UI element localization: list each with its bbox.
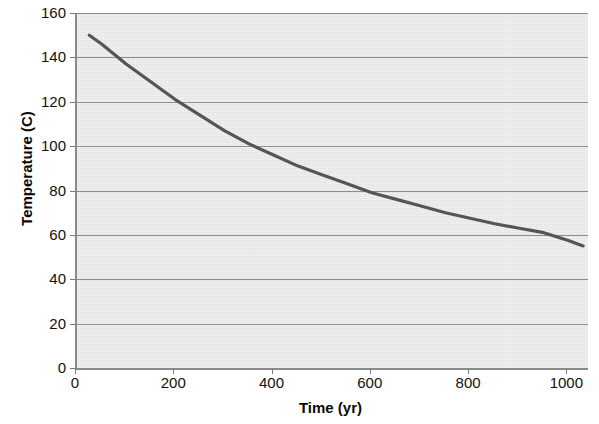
y-tick-label-20: 20 — [20, 316, 66, 331]
y-axis-title: Temperature (C) — [18, 59, 35, 279]
y-tick-20: 20 — [18, 316, 66, 332]
y-tick-mark-80 — [70, 191, 75, 192]
y-tick-120: 120 — [18, 94, 66, 110]
y-tick-label-40: 40 — [20, 271, 66, 286]
y-tick-mark-100 — [70, 146, 75, 147]
y-tick-140: 140 — [18, 49, 66, 65]
y-tick-label-140: 140 — [20, 49, 66, 64]
y-tick-0: 0 — [18, 360, 66, 376]
temperature-decay-chart: Temperature (C) 020406080100120140160 02… — [0, 0, 599, 424]
y-tick-label-120: 120 — [20, 94, 66, 109]
y-tick-label-0: 0 — [20, 360, 66, 375]
y-tick-label-100: 100 — [20, 138, 66, 153]
x-tick-label-600: 600 — [340, 375, 400, 390]
y-tick-mark-20 — [70, 324, 75, 325]
y-tick-mark-40 — [70, 279, 75, 280]
data-curve — [77, 13, 588, 368]
x-tick-label-200: 200 — [143, 375, 203, 390]
y-tick-label-80: 80 — [20, 183, 66, 198]
y-tick-mark-140 — [70, 57, 75, 58]
y-tick-mark-160 — [70, 13, 75, 14]
y-tick-160: 160 — [18, 5, 66, 21]
y-tick-label-160: 160 — [20, 5, 66, 20]
plot-area — [75, 13, 588, 370]
x-tick-label-400: 400 — [242, 375, 302, 390]
y-tick-40: 40 — [18, 271, 66, 287]
y-tick-label-60: 60 — [20, 227, 66, 242]
y-tick-60: 60 — [18, 227, 66, 243]
y-tick-80: 80 — [18, 183, 66, 199]
y-tick-100: 100 — [18, 138, 66, 154]
y-tick-mark-120 — [70, 102, 75, 103]
x-axis-title: Time (yr) — [75, 399, 586, 416]
x-tick-label-1000: 1000 — [536, 375, 596, 390]
x-tick-label-0: 0 — [45, 375, 105, 390]
y-tick-mark-60 — [70, 235, 75, 236]
x-tick-label-800: 800 — [438, 375, 498, 390]
